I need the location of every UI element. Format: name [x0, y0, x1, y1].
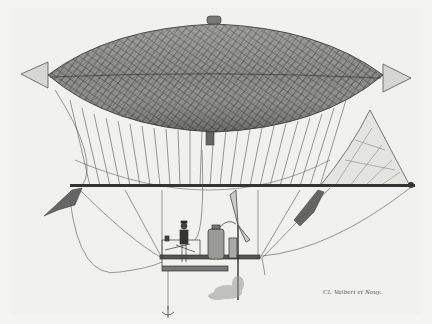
rudder-sail	[320, 110, 410, 186]
gondola	[160, 190, 260, 300]
airship-illustration	[0, 0, 432, 324]
smoke	[208, 276, 244, 300]
airship-envelope	[21, 16, 411, 145]
photo-credit-caption: Cl. Vaibert et Nouy.	[323, 288, 382, 296]
anchor	[162, 306, 174, 318]
